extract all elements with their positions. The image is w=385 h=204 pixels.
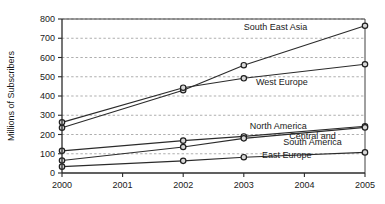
marker-south-east-asia-2003	[241, 62, 246, 67]
y-tick-label-100: 100	[40, 149, 55, 159]
y-tick-label-0: 0	[50, 168, 55, 178]
y-tick-label-700: 700	[40, 33, 55, 43]
marker-north-america-2002	[181, 138, 186, 143]
y-tick-label-300: 300	[40, 110, 55, 120]
y-axis-ticks: 0100200300400500600700800	[40, 14, 62, 178]
marker-central-and-south-america-2005	[362, 125, 367, 130]
x-tick-label-2002: 2002	[173, 180, 193, 190]
marker-west-europe-2002	[181, 85, 186, 90]
marker-central-and-south-america-2003	[241, 136, 246, 141]
x-tick-label-2003: 2003	[234, 180, 254, 190]
y-tick-label-400: 400	[40, 91, 55, 101]
series-label-south-east-asia: South East Asia	[244, 22, 308, 32]
marker-west-europe-2005	[362, 62, 367, 67]
y-tick-label-500: 500	[40, 72, 55, 82]
series-label-south-america: South America	[283, 137, 342, 147]
series-label-west-europe: West Europe	[256, 77, 308, 87]
marker-east-europe-2005	[362, 150, 367, 155]
line-chart-figure: 0100200300400500600700800 20002001200220…	[0, 0, 385, 204]
y-axis-title: Millions of Subscribers	[6, 50, 16, 141]
marker-east-europe-2002	[181, 158, 186, 163]
y-tick-label-200: 200	[40, 130, 55, 140]
x-tick-label-2004: 2004	[294, 180, 314, 190]
y-tick-label-600: 600	[40, 53, 55, 63]
marker-west-europe-2003	[241, 76, 246, 81]
series-label-east-europe: East Europe	[262, 150, 312, 160]
marker-central-and-south-america-2002	[181, 144, 186, 149]
marker-east-europe-2003	[241, 155, 246, 160]
marker-south-east-asia-2005	[362, 23, 367, 28]
x-tick-label-2000: 2000	[52, 180, 72, 190]
chart-canvas: 0100200300400500600700800 20002001200220…	[0, 0, 385, 204]
x-tick-label-2005: 2005	[355, 180, 375, 190]
series-label-north-america: North America	[250, 121, 307, 131]
x-tick-label-2001: 2001	[113, 180, 133, 190]
y-tick-label-800: 800	[40, 14, 55, 24]
